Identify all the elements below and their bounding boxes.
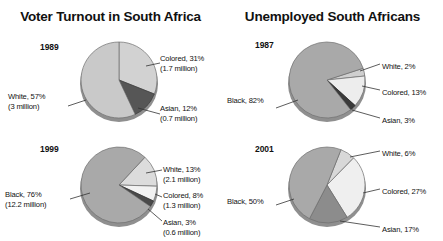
chart-voter-turnout-1989: 1989 Colored, 31% (1.7 milli xyxy=(0,30,221,133)
chart-year-label: 1987 xyxy=(255,40,274,50)
pie-chart-1999 xyxy=(76,137,162,233)
chart-voter-turnout-1999: 1999 xyxy=(0,135,221,238)
slice-label-asian-2001: Asian, 17% xyxy=(382,225,419,235)
panel-unemployed: Unemployed South Africans 1987 xyxy=(222,0,443,241)
page-title-voter-turnout: Voter Turnout in South Africa xyxy=(0,9,221,24)
slice-label-line1: White, 6% xyxy=(382,149,415,158)
slice-label-black-2001: Black, 50% xyxy=(227,197,264,207)
slice-label-line1: Asian, 12% xyxy=(160,104,197,113)
slice-label-line1: Colored, 31% xyxy=(160,54,204,63)
panel-voter-turnout: Voter Turnout in South Africa 1989 xyxy=(0,0,221,241)
chart-unemployed-2001: 2001 xyxy=(222,135,443,238)
page-title-unemployed: Unemployed South Africans xyxy=(222,9,443,24)
slice-label-white-1989: White, 57% (3 million) xyxy=(8,92,45,111)
slice-label-colored-1989: Colored, 31% (1.7 million) xyxy=(160,54,204,73)
slice-label-line2: (12.2 million) xyxy=(5,200,46,210)
slice-label-line1: Asian, 3% xyxy=(163,218,196,227)
slice-label-line1: Colored, 8% xyxy=(163,191,203,200)
slice-label-asian-1987: Asian, 3% xyxy=(382,116,415,126)
slice-label-black-1999: Black, 76% (12.2 million) xyxy=(5,190,46,209)
leader-line-white xyxy=(350,151,380,157)
slice-label-line1: Asian, 3% xyxy=(382,116,415,125)
slice-label-colored-2001: Colored, 27% xyxy=(382,187,426,197)
pie-chart-1989 xyxy=(76,34,162,126)
chart-unemployed-1987: 1987 xyxy=(222,30,443,133)
leader-line-white xyxy=(68,100,86,106)
slice-label-asian-1999: Asian, 3% (0.6 million) xyxy=(163,218,200,237)
slice-label-line1: Colored, 13% xyxy=(382,88,426,97)
slice-label-line2: (0.6 million) xyxy=(163,228,200,238)
slice-label-asian-1989: Asian, 12% (0.7 million) xyxy=(160,104,197,123)
slice-label-white-1999: White, 13% (2.1 million) xyxy=(163,165,200,184)
slice-label-colored-1999: Colored, 8% (1.3 million) xyxy=(163,191,203,210)
slice-label-white-1987: White, 2% xyxy=(382,62,415,72)
slice-label-line2: (1.3 million) xyxy=(163,201,203,211)
slice-label-line1: White, 13% xyxy=(163,165,200,174)
pie-chart-2001 xyxy=(284,137,370,233)
slice-label-line1: Asian, 17% xyxy=(382,225,419,234)
slice-label-line2: (1.7 million) xyxy=(160,64,204,74)
slice-label-line2: (3 million) xyxy=(8,102,45,112)
chart-year-label: 2001 xyxy=(255,144,274,154)
slice-label-line1: White, 2% xyxy=(382,62,415,71)
slice-label-line1: White, 57% xyxy=(8,92,45,101)
slice-label-line1: Colored, 27% xyxy=(382,187,426,196)
slice-label-line1: Black, 76% xyxy=(5,190,42,199)
leader-line-asian xyxy=(340,221,380,227)
slice-label-black-1987: Black, 82% xyxy=(227,96,264,106)
pie-chart-1987 xyxy=(284,34,370,126)
slice-label-line2: (0.7 million) xyxy=(160,114,197,124)
chart-year-label: 1989 xyxy=(40,42,59,52)
chart-year-label: 1999 xyxy=(40,144,59,154)
slice-label-line1: Black, 50% xyxy=(227,197,264,206)
slice-label-colored-1987: Colored, 13% xyxy=(382,88,426,98)
slice-label-line2: (2.1 million) xyxy=(163,175,200,185)
slice-label-white-2001: White, 6% xyxy=(382,149,415,159)
slice-label-line1: Black, 82% xyxy=(227,96,264,105)
leader-line-asian xyxy=(148,209,162,221)
leader-line-asian xyxy=(352,110,380,118)
